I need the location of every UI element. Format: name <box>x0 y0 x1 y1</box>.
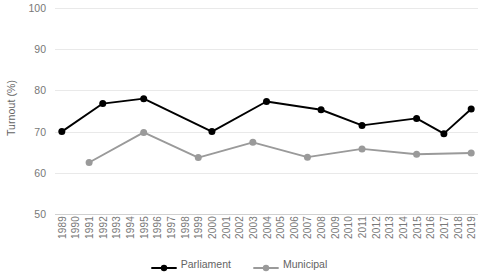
datapoint-municipal-2003 <box>249 139 256 146</box>
x-axis-tick-2004: 2004 <box>262 216 273 239</box>
datapoint-municipal-1991 <box>86 159 93 166</box>
datapoint-parliament-2008 <box>318 106 325 113</box>
x-axis-tick-2011: 2011 <box>357 216 368 238</box>
x-axis-tick-2007: 2007 <box>302 216 313 239</box>
y-axis-tick-60: 60 <box>34 167 46 179</box>
x-axis-tick-2005: 2005 <box>275 216 286 239</box>
x-axis-tick-2002: 2002 <box>234 216 245 239</box>
legend-label-parliament: Parliament <box>181 258 231 270</box>
datapoint-parliament-2015 <box>413 115 420 122</box>
x-axis-tick-2010: 2010 <box>343 216 354 239</box>
y-axis-tick-90: 90 <box>34 43 46 55</box>
x-axis-tick-1998: 1998 <box>180 216 191 239</box>
chart-legend: ParliamentMunicipal <box>0 254 478 274</box>
x-axis-tick-2012: 2012 <box>371 216 382 239</box>
y-axis-tick-80: 80 <box>34 84 46 96</box>
turnout-line-chart: Turnout (%) 5060708090100 19891990199119… <box>0 0 478 278</box>
x-axis-tick-1989: 1989 <box>57 216 68 239</box>
y-axis-tick-50: 50 <box>34 208 46 220</box>
plot-wrapper: 5060708090100 <box>22 8 478 214</box>
datapoint-parliament-2017 <box>440 130 447 137</box>
x-axis-tick-2015: 2015 <box>412 216 423 239</box>
x-axis-tick-1992: 1992 <box>98 216 109 239</box>
datapoint-municipal-1999 <box>195 154 202 161</box>
datapoint-parliament-2004 <box>263 98 270 105</box>
y-axis-tick-70: 70 <box>34 126 46 138</box>
legend-marker-parliament-icon <box>151 259 177 269</box>
datapoint-parliament-1992 <box>99 100 106 107</box>
x-axis-tick-labels: 1989199019911992199319941995199619971998… <box>55 216 478 252</box>
x-axis-tick-1997: 1997 <box>166 216 177 239</box>
x-axis-tick-2001: 2001 <box>221 216 232 239</box>
legend-item-municipal[interactable]: Municipal <box>253 258 327 270</box>
series-line-municipal <box>89 132 471 162</box>
x-axis-tick-2017: 2017 <box>439 216 450 239</box>
x-axis-tick-2003: 2003 <box>248 216 259 239</box>
plot-area <box>55 8 478 214</box>
y-axis-tick-100: 100 <box>28 2 46 14</box>
datapoint-municipal-1995 <box>140 129 147 136</box>
datapoint-municipal-2019 <box>468 150 475 157</box>
x-axis-tick-2018: 2018 <box>453 216 464 239</box>
x-axis-tick-2013: 2013 <box>384 216 395 239</box>
x-axis-tick-1991: 1991 <box>84 216 95 239</box>
x-axis-tick-1990: 1990 <box>70 216 81 239</box>
x-axis-tick-1994: 1994 <box>125 216 136 239</box>
x-axis-tick-2014: 2014 <box>398 216 409 239</box>
x-axis-tick-1995: 1995 <box>139 216 150 239</box>
datapoint-parliament-1989 <box>58 128 65 135</box>
datapoint-parliament-2019 <box>468 105 475 112</box>
x-axis-tick-2006: 2006 <box>289 216 300 239</box>
x-axis-tick-2008: 2008 <box>316 216 327 239</box>
datapoint-municipal-2015 <box>413 151 420 158</box>
x-axis-tick-1996: 1996 <box>152 216 163 239</box>
x-axis-tick-1993: 1993 <box>111 216 122 239</box>
legend-label-municipal: Municipal <box>283 258 327 270</box>
x-axis-tick-2019: 2019 <box>466 216 477 239</box>
x-axis-tick-2000: 2000 <box>207 216 218 239</box>
y-axis-tick-labels: 5060708090100 <box>22 8 50 214</box>
datapoint-municipal-2011 <box>359 145 366 152</box>
x-axis-tick-2016: 2016 <box>425 216 436 239</box>
plot-svg <box>55 8 478 214</box>
datapoint-municipal-2007 <box>304 154 311 161</box>
x-axis-tick-2009: 2009 <box>330 216 341 239</box>
y-axis-title-text: Turnout (%) <box>5 79 17 135</box>
x-axis-tick-1999: 1999 <box>193 216 204 239</box>
datapoint-parliament-2011 <box>359 122 366 129</box>
legend-item-parliament[interactable]: Parliament <box>151 258 231 270</box>
legend-marker-municipal-icon <box>253 259 279 269</box>
y-axis-title: Turnout (%) <box>0 0 22 215</box>
datapoint-parliament-2000 <box>208 128 215 135</box>
datapoint-parliament-1995 <box>140 95 147 102</box>
